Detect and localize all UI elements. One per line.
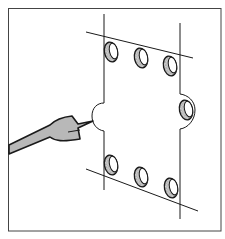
panel-left-edge bbox=[92, 14, 104, 190]
hole-top-1 bbox=[103, 41, 120, 63]
hole-top-3 bbox=[162, 55, 179, 77]
hole-bottom-2 bbox=[133, 166, 150, 188]
drilling-illustration bbox=[0, 0, 225, 239]
hole-top-2 bbox=[133, 47, 150, 69]
hole-bottom-3 bbox=[163, 177, 180, 199]
hole-bottom-1 bbox=[103, 154, 120, 176]
panel-right-edge bbox=[180, 23, 195, 219]
spade-bit-icon bbox=[9, 116, 93, 154]
hole-side bbox=[178, 99, 195, 121]
